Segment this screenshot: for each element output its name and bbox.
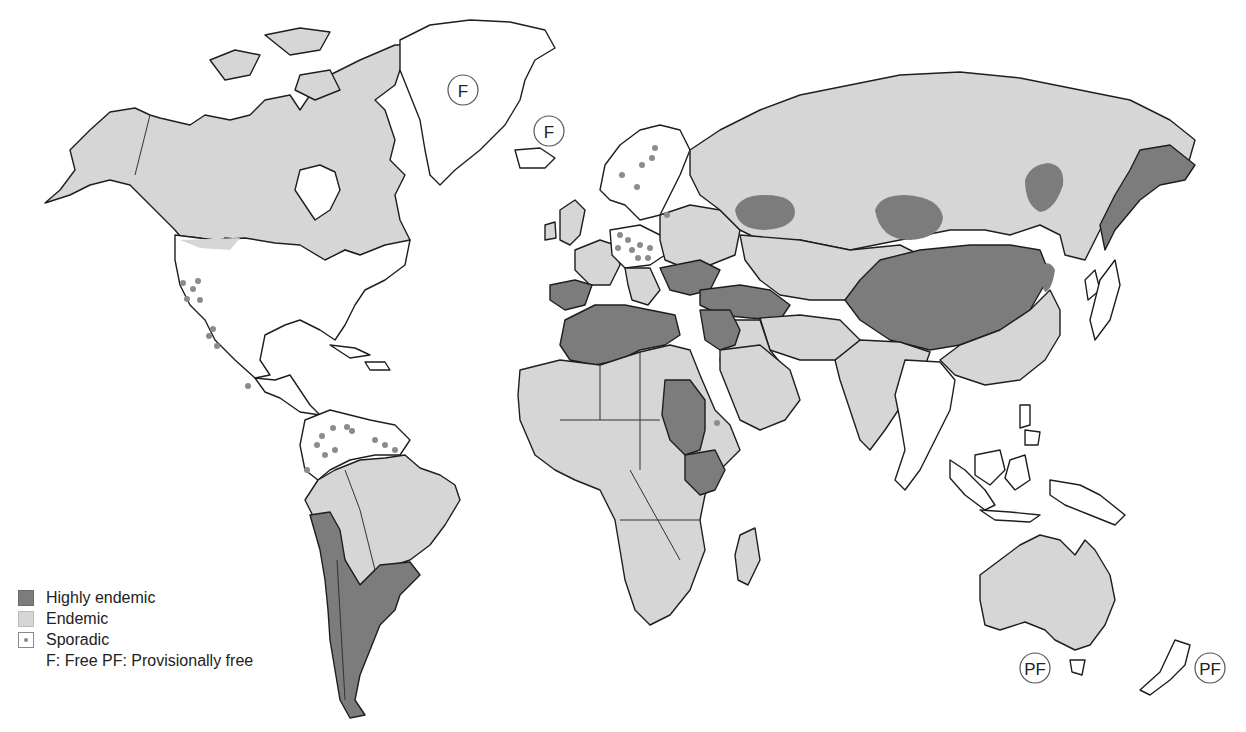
svg-text:F: F <box>544 123 554 142</box>
highly-endemic-swatch <box>18 590 34 606</box>
legend-item-endemic: Endemic <box>18 609 253 629</box>
legend-item-highly-endemic: Highly endemic <box>18 588 253 608</box>
provisionally-free-badge-new-zealand: PF <box>1195 653 1225 683</box>
legend-label: Sporadic <box>46 630 109 650</box>
svg-text:F: F <box>458 82 468 101</box>
region-canada-alaska <box>45 28 410 262</box>
region-usa-mexico <box>175 235 410 415</box>
svg-text:PF: PF <box>1024 660 1046 679</box>
legend-label: Endemic <box>46 609 108 629</box>
legend-label: Highly endemic <box>46 588 155 608</box>
endemic-swatch <box>18 611 34 627</box>
region-greenland <box>400 20 555 185</box>
sporadic-swatch-dot-icon <box>18 632 34 648</box>
free-badge-greenland: F <box>448 75 478 105</box>
map-legend: Highly endemic Endemic Sporadic F: Free … <box>18 588 253 671</box>
free-badge-iceland: F <box>534 116 564 146</box>
legend-note: F: Free PF: Provisionally free <box>46 651 253 671</box>
svg-text:PF: PF <box>1199 660 1221 679</box>
provisionally-free-badge-australia: PF <box>1020 653 1050 683</box>
legend-item-sporadic: Sporadic <box>18 630 253 650</box>
region-southeast-asia <box>950 405 1125 525</box>
region-australia-nz <box>980 535 1190 695</box>
